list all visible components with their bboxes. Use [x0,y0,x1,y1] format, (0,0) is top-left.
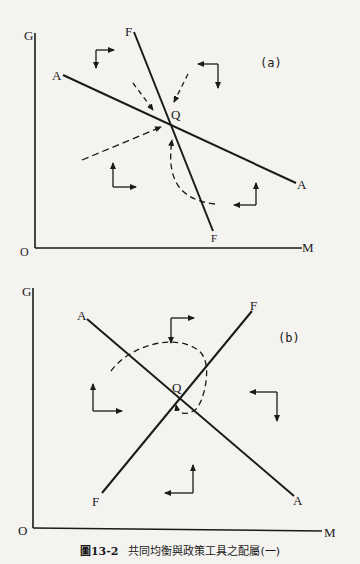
panel-b [33,288,322,531]
panel-a-y-axis-label: G [24,28,33,43]
panel-b-quadrant-arrow-s [165,465,193,493]
panel-a-dashed-path-4 [171,140,215,204]
panel-a-line-A-end-label: A [297,177,307,192]
panel-a-line-F-end-label: F [211,232,217,244]
panel-b-line-F-start-label: F [250,298,257,313]
panel-a-quadrant-arrow-sw [113,163,136,187]
panel-b-line-A-start-label: A [77,308,87,323]
panel-b-tag: (b) [278,331,300,345]
panel-a-quadrant-arrow-ne [198,64,218,88]
figure-caption-number: 圖13-2 [80,545,119,558]
panel-a-dashed-path-1 [133,83,153,110]
panel-b-equilibrium-Q-label: Q [172,380,182,395]
panel-a-labels: G O M A A F F Q (a) [20,24,314,259]
panel-a-line-A-start-label: A [52,68,62,83]
panel-a-equilibrium-Q-label: Q [171,107,181,122]
figure-caption: 圖13-2共同均衡與政策工具之配屬(一) [0,542,360,558]
figure-caption-text: 共同均衡與政策工具之配屬(一) [128,545,280,558]
panel-b-line-A-end-label: A [293,493,303,508]
panel-b-line-F-end-label: F [92,494,99,509]
panel-a-quadrant-arrow-nw [96,50,114,68]
panel-b-line-AA [87,319,294,496]
panel-a-quadrant-arrow-se [234,183,256,205]
panel-b-origin-label: O [18,523,27,538]
panel-b-x-axis-label: M [324,525,336,540]
panel-a-x-axis-label: M [302,240,314,255]
panel-b-quadrant-arrow-n [171,318,194,343]
panel-b-x-axis [33,528,322,531]
policy-assignment-diagram: G O M A A F F Q (a) [0,0,360,564]
panel-a-line-F-start-label: F [125,24,132,39]
panel-b-y-axis-label: G [22,284,31,299]
panel-a-origin-label: O [20,245,29,259]
panel-a-dashed-path-3 [82,127,161,160]
panel-a-tag: (a) [260,56,282,70]
panel-a-dashed-path-2 [174,74,188,102]
panel-b-quadrant-arrow-e [250,392,277,421]
panel-b-line-FF [102,311,252,493]
panel-b-quadrant-arrow-w [93,384,122,411]
panel-b-labels: G O M A A F F Q (b) [18,284,336,540]
